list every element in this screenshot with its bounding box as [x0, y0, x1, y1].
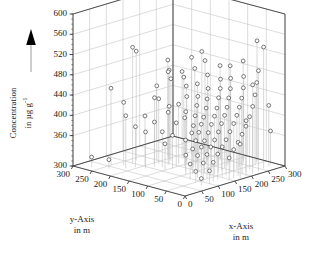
y-axis-title: y-Axis in m	[46, 214, 118, 235]
z-tick-label-440: 440	[54, 90, 68, 99]
z-tick-label-360: 360	[54, 131, 68, 140]
z-tick-label-480: 480	[54, 70, 68, 79]
y-tick-label-50: 50	[154, 195, 163, 204]
z-axis-title-exponent: -1	[21, 97, 28, 102]
z-tick-label-560: 560	[54, 29, 68, 38]
axis-lines	[73, 0, 285, 196]
y-tick-label-100: 100	[131, 190, 145, 199]
y-axis-title-line1: y-Axis	[46, 214, 118, 225]
y-tick-label-0: 0	[178, 200, 183, 209]
z-axis-title: Concentration in µg g-1	[8, 58, 30, 168]
x-tick-label-150: 150	[238, 185, 252, 194]
x-tick-label-200: 200	[255, 180, 269, 189]
z-tick-label-400: 400	[54, 110, 68, 119]
x-tick-label-0: 0	[188, 200, 193, 209]
y-tick-label-200: 200	[94, 180, 108, 189]
x-axis-title-line1: x-Axis	[205, 221, 277, 232]
figure-3d-scatter-plot: Concentration in µg g-1 y-Axis in m x-Ax…	[0, 0, 313, 253]
y-axis-title-line2: in m	[46, 225, 118, 236]
z-axis-title-line1: Concentration	[8, 58, 19, 168]
z-tick-label-520: 520	[54, 50, 68, 59]
x-axis-title: x-Axis in m	[205, 221, 277, 242]
z-axis-title-line2: in µg g-1	[19, 58, 34, 168]
data-points	[90, 39, 273, 180]
x-axis-title-line2: in m	[205, 232, 277, 243]
z-tick-label-600: 600	[54, 9, 68, 18]
x-tick-label-100: 100	[221, 190, 235, 199]
y-tick-label-300: 300	[57, 170, 71, 179]
x-tick-label-50: 50	[205, 195, 214, 204]
y-tick-label-250: 250	[75, 175, 89, 184]
x-tick-label-250: 250	[271, 175, 285, 184]
y-tick-label-150: 150	[113, 185, 127, 194]
x-tick-label-300: 300	[288, 170, 302, 179]
